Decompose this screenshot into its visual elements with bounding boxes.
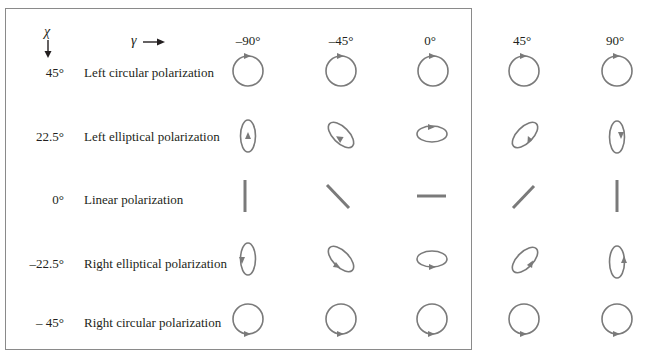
- polarization-grid: [0, 0, 670, 357]
- linear-icon: [245, 180, 617, 212]
- left-circular-icon: [233, 53, 632, 86]
- right-circular-icon: [233, 304, 632, 337]
- left-elliptical-icon: [241, 118, 625, 153]
- right-elliptical-icon: [239, 242, 627, 278]
